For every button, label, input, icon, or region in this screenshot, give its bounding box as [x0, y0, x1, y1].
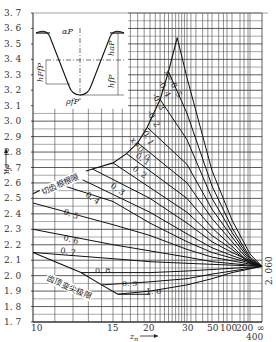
- y-tick-label: 3. 6: [4, 23, 21, 33]
- y-tick-label: 1. 7: [4, 317, 21, 327]
- x-tick-label: ∞: [257, 323, 265, 333]
- chart: 1. 71. 81. 92. 02. 12. 22. 32. 42. 52. 6…: [0, 0, 276, 342]
- y-tick-label: 3. 5: [4, 39, 21, 49]
- convergence-label: 2. 060: [264, 256, 274, 285]
- y-tick-label: 1. 8: [4, 302, 21, 312]
- y-tick-label: 2. 0: [4, 271, 21, 281]
- x-tick-label: 50: [207, 323, 219, 333]
- hffp-label: hFfP: [36, 62, 45, 82]
- x-tick-label: 400: [246, 332, 263, 342]
- y-tick-label: 2. 6: [4, 178, 21, 188]
- rho-fp-label: ρfP: [65, 97, 80, 106]
- x-tick-label: 100: [220, 323, 237, 333]
- x-tick-label: 15: [107, 323, 119, 333]
- series-label: 0. 8: [95, 266, 110, 275]
- hfp-label: hfP: [107, 74, 116, 88]
- y-tick-label: 3. 0: [4, 116, 21, 126]
- series-label: 0. 4: [84, 190, 102, 206]
- y-tick-label: 2. 9: [4, 132, 21, 142]
- alpha-p-label: αP: [62, 27, 73, 36]
- y-tick-label: 1. 9: [4, 286, 21, 296]
- y-tick-label: 3. 7: [4, 8, 21, 18]
- series-label: 1. 0: [146, 287, 161, 296]
- x-axis-label: zn: [129, 332, 138, 342]
- y-tick-label: 3. 2: [4, 85, 21, 95]
- series-line: [138, 143, 262, 267]
- tooth-profile-inset: αPhaPhfPhFfPρfP: [34, 14, 127, 106]
- y-tick-label: 3. 4: [4, 54, 21, 64]
- y-tick-label: 2. 2: [4, 240, 21, 250]
- y-tick-label: 2. 3: [4, 224, 21, 234]
- series-label: 0. 5: [62, 207, 79, 221]
- series-label: 0. 7: [60, 246, 77, 258]
- series-label: 0. 9: [122, 279, 137, 288]
- tip-limit-label: 齿顶变尖极限: [45, 273, 93, 302]
- hap-label: haP: [107, 40, 116, 56]
- series-label: 0. 3: [109, 181, 127, 197]
- x-tick-label: 30: [182, 323, 194, 333]
- y-tick-label: 2. 1: [4, 255, 21, 265]
- series-label: 0. 6: [62, 233, 79, 246]
- x-tick-label: 10: [31, 323, 43, 333]
- y-tick-label: 3. 1: [4, 101, 21, 111]
- y-tick-label: 2. 5: [4, 193, 21, 203]
- x-tick-label: 20: [143, 323, 155, 333]
- y-tick-label: 2. 4: [4, 209, 21, 219]
- y-tick-label: 3. 3: [4, 70, 21, 80]
